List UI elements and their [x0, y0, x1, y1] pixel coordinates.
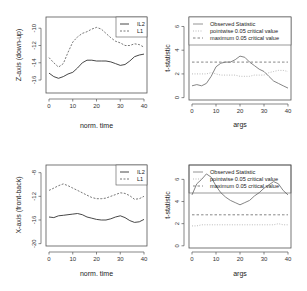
- svg-text:4: 4: [174, 48, 180, 52]
- svg-text:-16: -16: [31, 215, 37, 224]
- svg-text:6: 6: [174, 177, 180, 181]
- y-axis-label: t-statistic: [164, 44, 171, 72]
- series-observed-statistic: [192, 56, 288, 88]
- legend-pointwise: pointwise 0.05 critical value: [210, 176, 278, 182]
- legend: Observed Statistic pointwise 0.05 critic…: [189, 165, 291, 193]
- panel-t-statistic-bottom: args t-statistic Observed Statistic poin…: [164, 165, 291, 278]
- svg-text:-12: -12: [31, 41, 37, 50]
- svg-text:40: 40: [141, 103, 148, 109]
- series-il2: [49, 54, 144, 78]
- legend: Observed Statistic pointwise 0.05 critic…: [189, 17, 291, 45]
- y-axis-label: Z-axis (down-up): [15, 29, 23, 82]
- axes-ticks: 010203040-16-14-12-100102030400246010203…: [31, 23, 292, 262]
- series-pointwise-0-05-critical-value: [192, 70, 288, 76]
- legend-il2: IL2: [137, 21, 145, 27]
- svg-text:-20: -20: [31, 239, 37, 248]
- svg-text:6: 6: [174, 24, 180, 28]
- panel-z-axis: norm. time Z-axis (down-up) IL2 L1: [15, 17, 147, 129]
- series-lines: [192, 56, 288, 88]
- svg-text:0: 0: [174, 95, 180, 99]
- svg-text:40: 40: [141, 256, 148, 262]
- svg-text:0: 0: [47, 103, 51, 109]
- legend-observed: Observed Statistic: [210, 21, 256, 27]
- svg-text:40: 40: [285, 108, 292, 114]
- series-pointwise-0-05-critical-value: [192, 224, 288, 226]
- svg-text:0: 0: [190, 256, 194, 262]
- figure-4-panel: norm. time Z-axis (down-up) IL2 L1 args …: [0, 0, 307, 291]
- svg-text:30: 30: [261, 256, 268, 262]
- y-axis-label: t-statistic: [164, 191, 171, 219]
- x-axis-label: norm. time: [80, 122, 113, 129]
- svg-text:-12: -12: [31, 191, 37, 200]
- svg-text:20: 20: [93, 103, 100, 109]
- legend-maximum: maximum 0.05 critical value: [210, 35, 279, 41]
- svg-text:-10: -10: [31, 23, 37, 32]
- svg-text:30: 30: [117, 256, 124, 262]
- legend-maximum: maximum 0.05 critical value: [210, 183, 279, 189]
- svg-text:30: 30: [261, 108, 268, 114]
- svg-text:-14: -14: [31, 58, 37, 67]
- legend: IL2 L1: [116, 17, 147, 37]
- legend-il2: IL2: [137, 169, 145, 175]
- legend-l1: L1: [137, 176, 143, 182]
- svg-text:4: 4: [174, 199, 180, 203]
- svg-text:0: 0: [47, 256, 51, 262]
- legend-l1: L1: [137, 28, 143, 34]
- svg-text:0: 0: [190, 108, 194, 114]
- svg-text:20: 20: [93, 256, 100, 262]
- svg-text:20: 20: [237, 256, 244, 262]
- series-il2: [49, 214, 144, 223]
- x-axis-label: norm. time: [80, 270, 113, 277]
- x-axis-label: args: [233, 121, 247, 129]
- svg-text:10: 10: [213, 108, 220, 114]
- y-axis-label: X-axis (front-back): [15, 176, 23, 233]
- svg-text:10: 10: [69, 256, 76, 262]
- svg-text:2: 2: [174, 72, 180, 76]
- svg-text:40: 40: [285, 256, 292, 262]
- panel-t-statistic-top: args t-statistic Observed Statistic poin…: [164, 17, 291, 129]
- legend: IL2 L1: [116, 165, 147, 185]
- svg-text:30: 30: [117, 103, 124, 109]
- svg-text:20: 20: [237, 108, 244, 114]
- series-lines: [49, 184, 144, 223]
- svg-text:-16: -16: [31, 75, 37, 84]
- legend-pointwise: pointwise 0.05 critical value: [210, 28, 278, 34]
- svg-text:2: 2: [174, 221, 180, 225]
- legend-observed: Observed Statistic: [210, 169, 256, 175]
- svg-text:10: 10: [213, 256, 220, 262]
- x-axis-label: args: [233, 270, 247, 278]
- svg-text:0: 0: [174, 243, 180, 247]
- series-l1: [49, 184, 144, 199]
- svg-text:10: 10: [69, 103, 76, 109]
- svg-text:-8: -8: [31, 169, 37, 175]
